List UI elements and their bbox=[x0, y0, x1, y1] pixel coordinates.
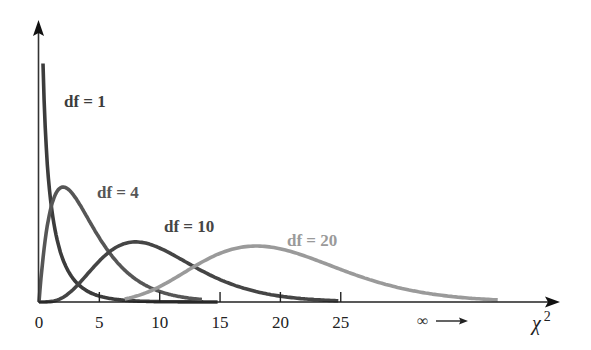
x-tick-label: 0 bbox=[35, 313, 44, 332]
x-tick-label: 5 bbox=[95, 313, 104, 332]
x-tick-label: 20 bbox=[272, 313, 289, 332]
curve-label: df = 10 bbox=[164, 217, 214, 236]
infinity-symbol: ∞ bbox=[417, 312, 428, 329]
x-tick-label: 25 bbox=[332, 313, 349, 332]
x-tick-label: 15 bbox=[212, 313, 229, 332]
x-tick-label: 10 bbox=[151, 313, 168, 332]
curve-df-20 bbox=[125, 246, 498, 300]
curve-label: df = 4 bbox=[97, 183, 139, 202]
curve-labels: df = 1df = 4df = 10df = 20 bbox=[64, 92, 337, 250]
curve-label: df = 20 bbox=[287, 231, 337, 250]
x-axis-label: χ2 bbox=[530, 309, 551, 335]
curve-label: df = 1 bbox=[64, 92, 106, 111]
chi-square-chart: 0510152025 df = 1df = 4df = 10df = 20 ∞ … bbox=[0, 0, 591, 350]
